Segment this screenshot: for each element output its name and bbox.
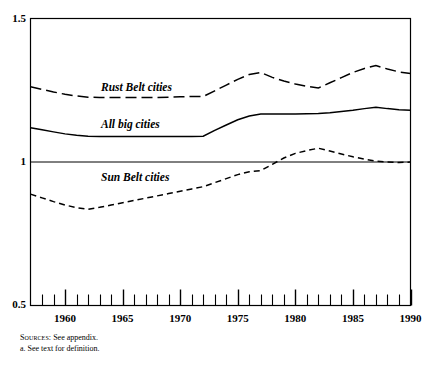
x-axis-tick-label: 1975 — [218, 312, 258, 324]
series-line-sun-belt-cities — [31, 148, 411, 209]
series-label-all-big: All big cities — [101, 118, 160, 130]
footnote-definition-text: a. See text for definition. — [20, 344, 100, 353]
footnote-definition: a. See text for definition. — [20, 344, 320, 355]
x-axis-tick-label: 1960 — [45, 312, 85, 324]
series-paths — [31, 66, 411, 210]
x-axis-tick-label: 1980 — [275, 312, 315, 324]
series-line-rust-belt-cities — [31, 66, 411, 98]
series-label-sun-belt: Sun Belt cities — [101, 171, 169, 183]
x-axis-tick-label: 1990 — [391, 312, 431, 324]
footnote-sources-text: See appendix. — [51, 333, 98, 342]
series-label-rust-belt: Rust Belt cities — [101, 81, 172, 93]
series-line-all-big-cities — [31, 107, 411, 136]
x-axis-ticks — [43, 290, 412, 306]
line-chart — [0, 0, 431, 365]
figure-footnotes: Sources: See appendix. a. See text for d… — [20, 333, 320, 354]
footnote-sources: Sources: See appendix. — [20, 333, 320, 344]
y-axis-label-min: 0.5 — [2, 299, 26, 310]
y-axis-label-max: 1.5 — [2, 13, 26, 24]
x-axis-tick-label: 1970 — [160, 312, 200, 324]
footnote-sources-prefix: Sources: — [20, 333, 51, 342]
y-axis-label-mid: 1 — [2, 156, 26, 167]
x-axis-tick-label: 1965 — [103, 312, 143, 324]
x-axis-tick-label: 1985 — [333, 312, 373, 324]
figure-container: 1.5 1 0.5 1960196519701975198019851990 R… — [0, 0, 431, 365]
